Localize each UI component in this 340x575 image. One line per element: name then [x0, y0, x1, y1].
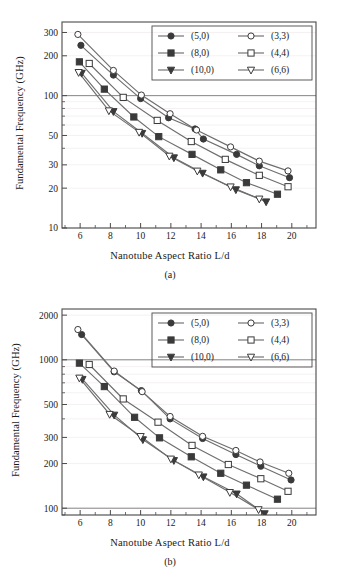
svg-text:10: 10	[136, 518, 146, 528]
data-point-open-square	[154, 117, 160, 123]
svg-text:18: 18	[257, 518, 267, 528]
svg-text:12: 12	[166, 518, 176, 528]
plot-area-a: 1020305010020030068101214161820(5,0)(8,0…	[0, 0, 340, 250]
svg-text:10: 10	[136, 231, 146, 241]
svg-text:100: 100	[44, 504, 59, 514]
data-point-open-circle	[285, 168, 291, 174]
data-point-filled-square	[76, 360, 82, 366]
data-point-filled-square	[188, 454, 194, 460]
data-point-filled-square	[274, 496, 280, 502]
svg-text:6: 6	[78, 518, 83, 528]
svg-text:20: 20	[287, 518, 297, 528]
data-point-filled-circle	[168, 33, 174, 39]
data-point-filled-square	[243, 482, 249, 488]
svg-text:16: 16	[227, 231, 237, 241]
data-point-open-circle	[110, 67, 116, 73]
data-point-open-square	[225, 461, 231, 467]
data-point-open-circle	[138, 92, 144, 98]
data-point-open-circle	[111, 368, 117, 374]
legend-label: (8,0)	[191, 48, 209, 59]
svg-text:2000: 2000	[39, 311, 58, 321]
svg-text:8: 8	[108, 518, 113, 528]
svg-text:1000: 1000	[39, 355, 58, 365]
data-point-filled-circle	[286, 175, 292, 181]
legend-label: (10,0)	[191, 65, 214, 76]
data-point-open-square	[155, 419, 161, 425]
x-axis-label-b: Nanotube Aspect Ratio L/d	[0, 537, 340, 548]
svg-text:10: 10	[49, 223, 59, 233]
data-point-filled-square	[218, 470, 224, 476]
data-point-open-square	[120, 94, 126, 100]
chart-svg-a: 1020305010020030068101214161820(5,0)(8,0…	[0, 0, 340, 250]
data-point-open-square	[222, 156, 228, 162]
svg-text:18: 18	[257, 231, 267, 241]
data-point-open-square	[86, 60, 92, 66]
data-point-filled-square	[156, 134, 162, 140]
svg-text:100: 100	[44, 91, 59, 101]
data-point-open-circle	[227, 144, 233, 150]
data-point-filled-square	[168, 50, 174, 56]
data-point-open-square	[248, 337, 254, 343]
data-point-open-circle	[256, 158, 262, 164]
data-point-filled-square	[156, 435, 162, 441]
data-point-filled-square	[243, 180, 249, 186]
svg-text:16: 16	[227, 518, 237, 528]
series-line	[79, 62, 277, 194]
data-point-filled-circle	[168, 320, 174, 326]
svg-text:50: 50	[49, 131, 59, 141]
data-point-filled-square	[274, 191, 280, 197]
chart-svg-b: 1002003005001000200068101214161820(5,0)(…	[0, 287, 340, 537]
data-point-filled-circle	[288, 477, 294, 483]
series-line	[82, 335, 291, 480]
plot-area-b: 1002003005001000200068101214161820(5,0)(…	[0, 287, 340, 537]
data-point-filled-square	[76, 59, 82, 65]
data-point-filled-square	[131, 414, 137, 420]
data-point-open-square	[189, 442, 195, 448]
svg-text:20: 20	[49, 184, 59, 194]
data-point-filled-triangle-down	[261, 511, 268, 518]
data-point-open-circle	[139, 389, 145, 395]
svg-text:14: 14	[196, 518, 206, 528]
figure-panel-a: 1020305010020030068101214161820(5,0)(8,0…	[0, 0, 340, 287]
data-point-filled-circle	[234, 151, 240, 157]
x-axis-label-a: Nanotube Aspect Ratio L/d	[0, 250, 340, 261]
data-point-open-triangle-down	[226, 490, 233, 497]
data-point-filled-circle	[200, 136, 206, 142]
data-point-filled-square	[189, 151, 195, 157]
data-point-filled-triangle-down	[167, 67, 174, 74]
data-point-open-square	[285, 184, 291, 190]
data-point-open-square	[86, 361, 92, 367]
panel-caption-a: (a)	[0, 269, 340, 280]
svg-text:300: 300	[44, 28, 59, 38]
y-axis-label-b: Fundamental Frequency (GHz)	[10, 285, 28, 535]
legend-label: (3,3)	[271, 31, 289, 42]
data-point-open-circle	[167, 413, 173, 419]
data-point-open-square	[188, 138, 194, 144]
legend-label: (4,4)	[271, 335, 289, 346]
data-point-open-circle	[200, 433, 206, 439]
data-point-filled-circle	[78, 42, 84, 48]
data-point-open-circle	[75, 326, 81, 332]
data-point-open-circle	[248, 320, 254, 326]
data-point-open-square	[248, 50, 254, 56]
data-point-filled-square	[101, 383, 107, 389]
svg-text:200: 200	[44, 51, 59, 61]
data-point-open-square	[258, 476, 264, 482]
svg-text:200: 200	[44, 459, 59, 469]
svg-text:14: 14	[196, 231, 206, 241]
data-point-open-circle	[167, 111, 173, 117]
svg-text:20: 20	[287, 231, 297, 241]
series-line	[82, 73, 266, 202]
data-point-filled-square	[131, 114, 137, 120]
data-point-open-circle	[233, 447, 239, 453]
svg-text:8: 8	[108, 231, 113, 241]
data-point-open-circle	[248, 33, 254, 39]
data-point-open-triangle-down	[247, 67, 254, 74]
legend-label: (3,3)	[271, 318, 289, 329]
series-line	[78, 34, 288, 170]
data-point-filled-square	[101, 86, 107, 92]
legend-label: (5,0)	[191, 318, 209, 329]
data-point-open-square	[120, 396, 126, 402]
series-line	[79, 363, 277, 499]
data-point-open-square	[285, 488, 291, 494]
